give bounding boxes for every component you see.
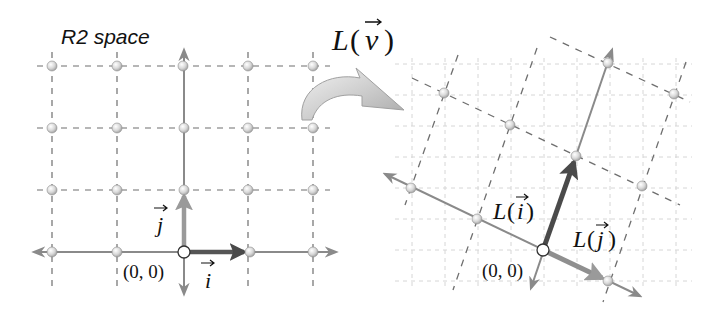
vec-arrow-accent-icon	[201, 260, 214, 266]
svg-text:L: L	[492, 198, 506, 224]
left-panel-r2-space: R2 space	[34, 25, 336, 294]
L-j-label: L ( j )	[572, 222, 616, 252]
svg-text:L: L	[331, 23, 349, 56]
vector-j-label: j	[154, 205, 167, 237]
right-dashed-grid	[405, 37, 690, 302]
svg-text:j: j	[594, 226, 604, 252]
left-origin-label: (0, 0)	[123, 261, 164, 283]
vector-L-j-arrow	[543, 250, 602, 278]
transform-label: L ( v )	[331, 19, 394, 57]
svg-text:(: (	[350, 23, 360, 57]
vec-arrow-accent-icon	[154, 205, 167, 211]
svg-text:v: v	[365, 23, 379, 56]
left-origin-point	[178, 246, 190, 258]
svg-text:j: j	[154, 212, 163, 237]
right-origin-label: (0, 0)	[482, 260, 523, 282]
svg-text:(: (	[587, 226, 595, 252]
transformation-arrow: L ( v )	[302, 19, 404, 120]
vector-L-i-arrow	[543, 162, 574, 250]
right-origin-point	[537, 244, 549, 256]
linear-transformation-diagram: R2 space	[0, 0, 724, 314]
svg-text:): )	[608, 226, 616, 252]
svg-text:(: (	[507, 198, 515, 224]
curved-arrow-icon	[302, 68, 404, 120]
svg-text:i: i	[205, 268, 211, 293]
right-panel-transformed-space: (0, 0) L ( i ) L ( j )	[385, 37, 692, 302]
L-i-label: L ( i )	[492, 194, 534, 224]
left-panel-title: R2 space	[61, 25, 150, 48]
svg-text:): )	[526, 198, 534, 224]
svg-text:): )	[384, 23, 394, 57]
vector-i-label: i	[201, 260, 214, 293]
svg-text:i: i	[517, 198, 524, 224]
svg-text:L: L	[572, 226, 586, 252]
